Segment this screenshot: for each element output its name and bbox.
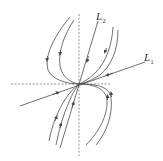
- trajectory-lr-2: [79, 84, 111, 145]
- label-L2: L2: [96, 11, 106, 25]
- trajectory-ur-2: [79, 30, 118, 84]
- arrow-ur-1: [105, 48, 107, 52]
- phase-portrait: L2 L1: [0, 0, 163, 161]
- label-L1: L1: [144, 52, 154, 66]
- arrow-L1-left: [52, 93, 58, 95]
- arrow-ul-2: [60, 50, 61, 54]
- label-L2-sub: 2: [102, 17, 106, 25]
- phase-portrait-svg: [0, 0, 163, 161]
- label-L1-sub: 1: [150, 58, 154, 66]
- trajectory-ul-2: [60, 20, 79, 84]
- arrow-L2-bottom: [72, 103, 74, 108]
- trajectory-ll-1: [49, 84, 79, 141]
- arrow-ul-1: [47, 56, 48, 60]
- trajectory-ll-2: [56, 84, 79, 145]
- arrow-L1-right: [107, 73, 113, 75]
